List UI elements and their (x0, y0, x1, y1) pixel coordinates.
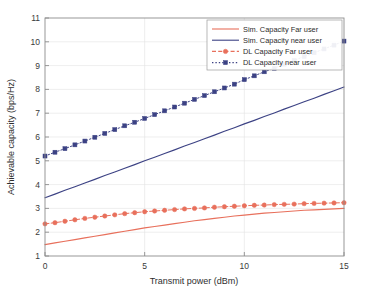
data-point-marker (212, 90, 216, 94)
data-point-marker (53, 150, 57, 154)
data-point-marker (192, 206, 196, 210)
legend-entry-label[interactable]: DL Capacity Far user (243, 47, 313, 56)
data-point-marker (302, 201, 306, 205)
data-point-marker (83, 216, 87, 220)
data-point-marker (262, 203, 266, 207)
data-point-marker (312, 201, 316, 205)
data-point-marker (152, 209, 156, 213)
data-point-marker (212, 205, 216, 209)
y-tick-label: 5 (35, 156, 40, 166)
legend-swatch-marker (224, 61, 228, 65)
y-tick-label: 2 (35, 227, 40, 237)
data-point-marker (173, 105, 177, 109)
data-point-marker (143, 116, 147, 120)
data-point-marker (142, 210, 146, 214)
data-point-marker (332, 201, 336, 205)
data-point-marker (162, 208, 166, 212)
data-point-marker (93, 135, 97, 139)
data-point-marker (133, 210, 137, 214)
data-point-marker (202, 206, 206, 210)
x-tick-label: 0 (43, 261, 48, 271)
x-tick-label: 10 (240, 261, 250, 271)
data-point-marker (272, 202, 276, 206)
y-tick-label: 1 (35, 251, 40, 261)
data-point-marker (93, 215, 97, 219)
y-tick-label: 3 (35, 203, 40, 213)
data-point-marker (172, 207, 176, 211)
data-point-marker (63, 147, 67, 151)
y-tick-label: 6 (35, 132, 40, 142)
chart-figure: 1234567891011 051015 Transmit power (dBm… (0, 0, 365, 291)
x-tick-label: 15 (339, 261, 349, 271)
data-point-marker (183, 101, 187, 105)
data-point-marker (63, 219, 67, 223)
data-point-marker (292, 202, 296, 206)
data-point-marker (113, 213, 117, 217)
chart-legend[interactable]: Sim. Capacity Far userSim. Capacity near… (207, 20, 342, 70)
data-point-marker (282, 202, 286, 206)
data-point-marker (113, 128, 117, 132)
y-axis-title: Achievable capacity (bps/Hz) (6, 79, 16, 195)
y-tick-label: 9 (35, 61, 40, 71)
legend-entry-label[interactable]: DL Capacity near user (243, 58, 317, 67)
data-point-marker (242, 204, 246, 208)
data-point-marker (153, 113, 157, 117)
data-point-marker (222, 205, 226, 209)
data-point-marker (123, 124, 127, 128)
data-point-marker (73, 218, 77, 222)
data-point-marker (202, 94, 206, 98)
x-tick-label: 5 (142, 261, 147, 271)
legend-entry-label[interactable]: Sim. Capacity near user (243, 36, 322, 45)
y-tick-label: 7 (35, 108, 40, 118)
data-point-marker (232, 82, 236, 86)
data-point-marker (103, 214, 107, 218)
chart-plot-svg: 1234567891011 051015 Transmit power (dBm… (0, 0, 365, 291)
data-point-marker (103, 131, 107, 135)
data-point-marker (322, 201, 326, 205)
data-point-marker (53, 220, 57, 224)
x-axis-title: Transmit power (dBm) (150, 276, 239, 286)
data-point-marker (242, 78, 246, 82)
data-point-marker (222, 86, 226, 90)
data-point-marker (232, 204, 236, 208)
data-point-marker (252, 203, 256, 207)
legend-entry-label[interactable]: Sim. Capacity Far user (243, 25, 319, 34)
y-tick-label: 8 (35, 84, 40, 94)
data-point-marker (83, 139, 87, 143)
legend-swatch-marker (223, 49, 227, 53)
data-point-marker (262, 70, 266, 74)
data-point-marker (252, 74, 256, 78)
data-point-marker (73, 143, 77, 147)
data-point-marker (182, 207, 186, 211)
y-tick-label: 4 (35, 180, 40, 190)
data-point-marker (193, 97, 197, 101)
y-tick-label: 10 (31, 37, 41, 47)
data-point-marker (163, 109, 167, 113)
data-point-marker (123, 211, 127, 215)
data-point-marker (133, 120, 137, 124)
y-tick-label: 11 (31, 13, 40, 23)
